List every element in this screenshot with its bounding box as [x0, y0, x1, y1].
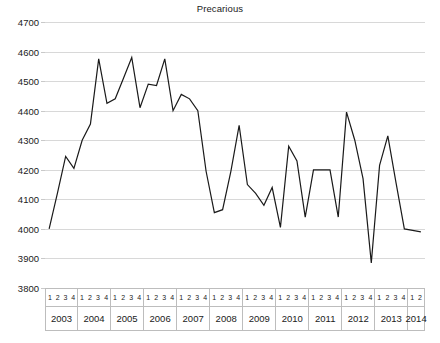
- x-tick-label-quarter: 2: [152, 289, 160, 306]
- x-axis-quarter-group: 1234: [243, 289, 276, 306]
- x-tick-label-quarter: 2: [416, 289, 424, 306]
- x-tick-label-quarter: 3: [391, 289, 399, 306]
- x-tick-label-quarter: 2: [284, 289, 292, 306]
- x-tick-label-quarter: 3: [94, 289, 102, 306]
- x-tick-label-year: 2005: [111, 307, 144, 330]
- y-tick-label: 4200: [18, 164, 39, 175]
- x-tick-label-quarter: 3: [62, 289, 70, 306]
- x-tick-label-quarter: 3: [193, 289, 201, 306]
- x-axis-quarter-group: 1234: [309, 289, 342, 306]
- x-tick-label-quarter: 1: [243, 289, 251, 306]
- x-tick-label-quarter: 2: [119, 289, 127, 306]
- y-tick-label: 4400: [18, 105, 39, 116]
- x-tick-label-quarter: 3: [325, 289, 333, 306]
- x-tick-label-quarter: 2: [86, 289, 94, 306]
- y-tick-label: 4100: [18, 194, 39, 205]
- x-tick-label-quarter: 1: [375, 289, 383, 306]
- x-tick-label-quarter: 3: [226, 289, 234, 306]
- x-tick-label-quarter: 2: [350, 289, 358, 306]
- x-axis-quarter-group: 12: [408, 289, 425, 306]
- x-tick-label-quarter: 1: [408, 289, 416, 306]
- x-tick-label-quarter: 1: [46, 289, 54, 306]
- x-tick-label-quarter: 4: [300, 289, 308, 306]
- x-tick-label-quarter: 4: [135, 289, 143, 306]
- x-tick-label-quarter: 4: [234, 289, 242, 306]
- y-axis: 4700460045004400430042004100400039003800: [0, 0, 45, 343]
- x-tick-label-quarter: 3: [127, 289, 135, 306]
- x-tick-label-year: 2004: [78, 307, 111, 330]
- x-tick-label-quarter: 2: [54, 289, 62, 306]
- x-axis-quarter-row: 1234123412341234123412341234123412341234…: [45, 288, 425, 307]
- x-tick-label-year: 2012: [342, 307, 375, 330]
- x-tick-label-year: 2009: [243, 307, 276, 330]
- x-tick-label-quarter: 1: [210, 289, 218, 306]
- y-tick-label: 4000: [18, 223, 39, 234]
- x-axis-year-row: 2003200420052006200720082009201020112012…: [45, 307, 425, 331]
- x-tick-label-year: 2010: [276, 307, 309, 330]
- x-axis-quarter-group: 1234: [342, 289, 375, 306]
- x-axis-quarter-group: 1234: [45, 289, 78, 306]
- x-tick-label-quarter: 1: [342, 289, 350, 306]
- x-tick-label-year: 2011: [309, 307, 342, 330]
- y-tick-label: 4500: [18, 76, 39, 87]
- x-tick-label-year: 2008: [210, 307, 243, 330]
- x-tick-label-year: 2013: [375, 307, 408, 330]
- x-tick-label-quarter: 4: [168, 289, 176, 306]
- x-tick-label-quarter: 4: [102, 289, 110, 306]
- x-tick-label-quarter: 3: [259, 289, 267, 306]
- x-tick-label-quarter: 1: [177, 289, 185, 306]
- x-axis-quarter-group: 1234: [177, 289, 210, 306]
- y-tick-label: 4300: [18, 135, 39, 146]
- y-tick-label: 4700: [18, 17, 39, 28]
- x-tick-label-quarter: 1: [78, 289, 86, 306]
- x-axis-quarter-group: 1234: [144, 289, 177, 306]
- x-axis-quarter-group: 1234: [276, 289, 309, 306]
- x-tick-label-year: 2003: [45, 307, 78, 330]
- x-tick-label-quarter: 1: [309, 289, 317, 306]
- x-axis-quarter-group: 1234: [375, 289, 408, 306]
- x-tick-label-quarter: 4: [333, 289, 341, 306]
- x-tick-label-quarter: 4: [69, 289, 77, 306]
- x-tick-label-quarter: 4: [267, 289, 275, 306]
- x-tick-label-year: 2006: [144, 307, 177, 330]
- x-tick-label-quarter: 1: [276, 289, 284, 306]
- series-polyline: [49, 57, 421, 262]
- x-tick-label-quarter: 4: [399, 289, 407, 306]
- x-tick-label-quarter: 2: [251, 289, 259, 306]
- x-axis-quarter-group: 1234: [78, 289, 111, 306]
- x-tick-label-quarter: 4: [201, 289, 209, 306]
- plot-area: [45, 22, 425, 288]
- x-tick-label-quarter: 3: [160, 289, 168, 306]
- x-tick-label-quarter: 2: [383, 289, 391, 306]
- x-tick-label-quarter: 1: [144, 289, 152, 306]
- x-tick-label-quarter: 2: [317, 289, 325, 306]
- x-tick-label-quarter: 1: [111, 289, 119, 306]
- y-tick-label: 3800: [18, 283, 39, 294]
- chart-title: Precarious: [0, 3, 440, 14]
- x-axis-quarter-group: 1234: [111, 289, 144, 306]
- x-axis-quarter-group: 1234: [210, 289, 243, 306]
- x-tick-label-quarter: 2: [185, 289, 193, 306]
- line-series: [45, 22, 425, 288]
- y-tick-label: 4600: [18, 46, 39, 57]
- x-tick-label-year: 2014: [408, 307, 425, 330]
- x-tick-label-quarter: 3: [358, 289, 366, 306]
- x-tick-label-year: 2007: [177, 307, 210, 330]
- x-axis: 1234123412341234123412341234123412341234…: [45, 288, 425, 332]
- x-tick-label-quarter: 4: [366, 289, 374, 306]
- x-tick-label-quarter: 3: [292, 289, 300, 306]
- y-tick-label: 3900: [18, 253, 39, 264]
- x-tick-label-quarter: 2: [218, 289, 226, 306]
- chart-container: Precarious 47004600450044004300420041004…: [0, 0, 440, 343]
